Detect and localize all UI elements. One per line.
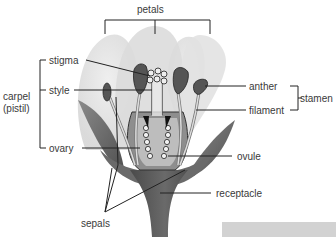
label-ovule: ovule <box>237 151 261 162</box>
label-stamen: stamen <box>300 93 333 104</box>
label-filament: filament <box>249 105 284 116</box>
label-pistil: (pistil) <box>3 103 30 114</box>
label-stigma: stigma <box>49 55 78 66</box>
flower-diagram: petals stigma style carpel (pistil) ovar… <box>0 0 336 237</box>
flower-illustration <box>0 0 336 237</box>
stem-shape <box>130 170 188 237</box>
label-style: style <box>49 85 70 96</box>
corner-gray-box <box>222 222 336 237</box>
label-anther: anther <box>249 81 277 92</box>
label-ovary: ovary <box>49 143 73 154</box>
label-receptacle: receptacle <box>216 188 262 199</box>
label-sepals: sepals <box>81 218 110 229</box>
label-carpel: carpel <box>3 91 30 102</box>
label-petals: petals <box>137 4 164 15</box>
